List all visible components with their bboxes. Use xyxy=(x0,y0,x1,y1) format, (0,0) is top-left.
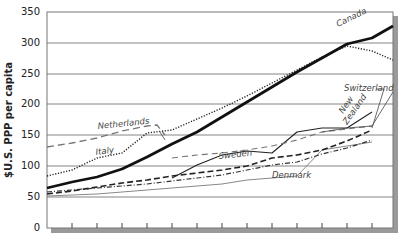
label-denmark: Denmark xyxy=(272,170,312,180)
y-tick-350: 350 xyxy=(21,6,40,17)
y-tick-250: 250 xyxy=(21,68,40,79)
y-tick-100: 100 xyxy=(21,160,40,171)
y-axis-labels: 0 50 100 150 200 250 300 350 xyxy=(21,6,40,233)
y-tick-200: 200 xyxy=(21,98,40,109)
y-axis-title: $U.S. PPP per capita xyxy=(3,62,14,178)
line-chart: 0 50 100 150 200 250 300 350 $U.S. PPP p… xyxy=(0,0,403,241)
y-tick-0: 0 xyxy=(34,222,40,233)
y-tick-50: 50 xyxy=(27,191,40,202)
label-switzerland: Switzerland xyxy=(344,83,394,93)
y-tick-300: 300 xyxy=(21,37,40,48)
y-tick-150: 150 xyxy=(21,129,40,140)
